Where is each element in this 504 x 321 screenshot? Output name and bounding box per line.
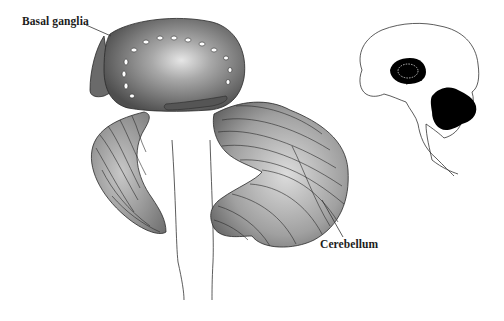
basal-ganglia-label: Basal ganglia [22,15,89,27]
inset-cerebellum [431,88,476,130]
cerebellum-label: Cerebellum [320,238,378,250]
cerebellum-left-lobe [91,112,166,234]
basal-ganglia [90,18,245,111]
brainstem [172,140,213,300]
inset-brain-diagram [360,23,479,176]
brain-illustration [0,0,504,321]
basal-ganglia-leader-line [86,25,111,36]
cerebellum-right-lobe [211,102,349,247]
